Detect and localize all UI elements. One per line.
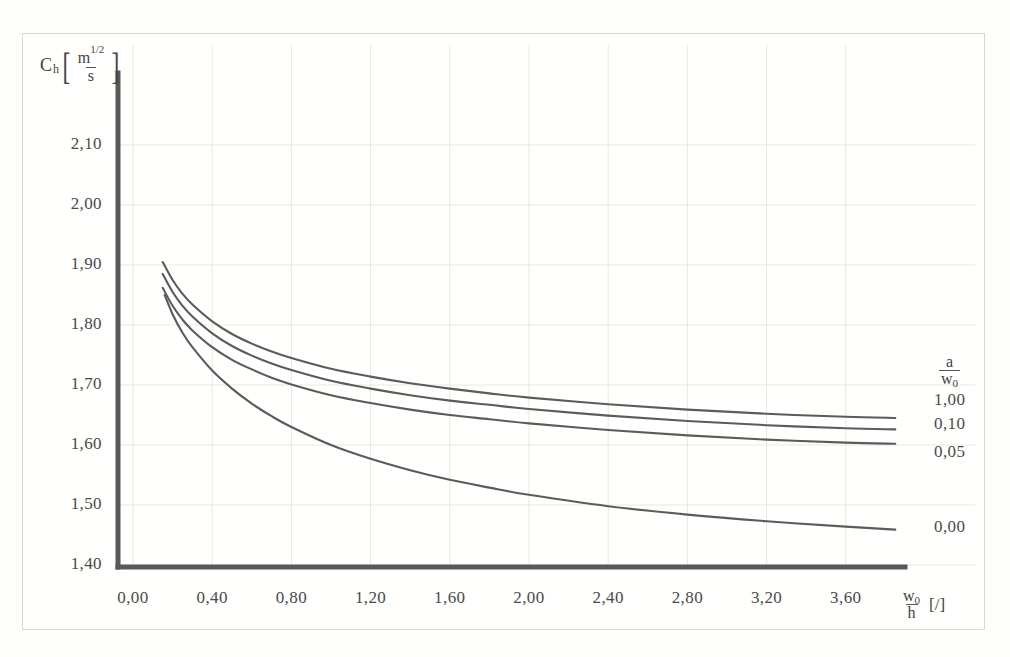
y-axis-symbol-subscript: h [53,62,59,77]
x-axis-units: [/] [929,595,945,615]
y-tick-label: 1,90 [40,254,102,274]
y-axis-symbol: C [40,55,52,76]
x-tick-label: 3,60 [811,588,881,608]
x-axis-denominator: h [906,604,918,621]
left-bracket-icon: [ [62,52,70,80]
chart-svg [0,0,1010,657]
right-bracket-icon: ] [112,52,120,80]
legend-item-100: 1,00 [934,390,965,410]
y-tick-label: 1,40 [40,554,102,574]
y-axis-unit-numerator: m1/2 [76,48,107,67]
x-tick-label: 0,40 [177,588,247,608]
y-axis-title: Ch [ m1/2 s ] [40,48,122,84]
x-tick-label: 0,00 [98,588,168,608]
x-axis-numerator: w0 [901,588,922,604]
x-tick-label: 2,40 [573,588,643,608]
legend-title-denominator: w0 [939,370,960,387]
scanned-page-background: Ch [ m1/2 s ] w0 h [/] a w0 1,401,501,60… [0,0,1010,657]
legend-title-fraction: a w0 [937,354,962,388]
x-tick-label: 0,80 [256,588,326,608]
y-tick-label: 1,60 [40,434,102,454]
x-axis-fraction: w0 h [899,588,924,622]
y-tick-label: 1,80 [40,314,102,334]
gridlines-group [118,45,975,567]
curve-000 [165,295,896,530]
y-axis-unit-denominator: s [86,67,96,84]
y-tick-label: 1,50 [40,494,102,514]
chart-plot-area [0,0,1010,657]
x-tick-label: 1,60 [415,588,485,608]
x-tick-label: 3,20 [732,588,802,608]
y-axis-unit-fraction: m1/2 s [74,48,109,84]
y-tick-label: 2,00 [40,194,102,214]
legend-title-numerator: a [944,354,955,370]
x-axis-title: w0 h [/] [899,588,945,622]
legend-item-005: 0,05 [934,442,965,462]
legend-title: a w0 [937,352,962,388]
y-tick-label: 2,10 [40,134,102,154]
x-tick-label: 2,00 [494,588,564,608]
legend-item-000: 0,00 [934,517,965,537]
x-tick-label: 1,20 [336,588,406,608]
x-tick-label: 2,80 [652,588,722,608]
y-tick-label: 1,70 [40,374,102,394]
legend-item-010: 0,10 [934,414,965,434]
